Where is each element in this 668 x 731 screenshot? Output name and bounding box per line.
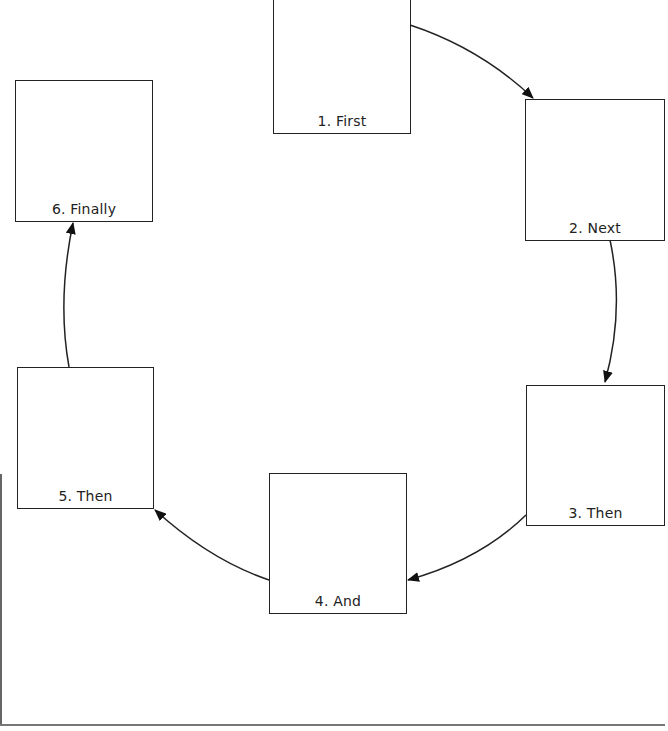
arrow-4-to-5 [155, 510, 269, 580]
step-box-3: 3. Then [526, 385, 665, 526]
arrow-1-to-2 [410, 25, 533, 98]
arrow-2-to-3 [605, 240, 616, 382]
step-label-2: 2. Next [526, 220, 664, 236]
step-label-3: 3. Then [527, 505, 664, 521]
step-box-4: 4. And [269, 473, 407, 614]
step-box-1: 1. First [273, 0, 411, 134]
step-box-6: 6. Finally [15, 80, 153, 222]
step-label-4: 4. And [270, 593, 406, 609]
step-box-5: 5. Then [17, 367, 154, 509]
step-label-6: 6. Finally [16, 201, 152, 217]
step-box-2: 2. Next [525, 99, 665, 241]
arrow-3-to-4 [408, 515, 526, 580]
step-label-1: 1. First [274, 113, 410, 129]
arrow-5-to-6 [64, 223, 73, 367]
cycle-diagram: 1. First 2. Next 3. Then 4. And 5. Then … [0, 0, 668, 731]
step-label-5: 5. Then [18, 488, 153, 504]
